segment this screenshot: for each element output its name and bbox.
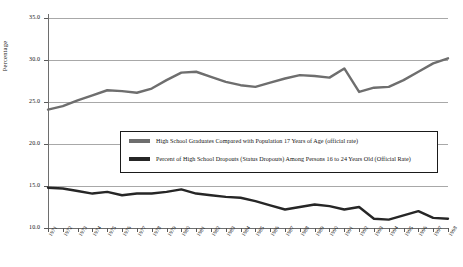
legend-label-graduates: High School Graduates Compared with Popu… [156, 138, 358, 144]
series-line-dropouts [48, 188, 448, 220]
legend-swatch-graduates [129, 139, 150, 142]
series-line-graduates [48, 58, 448, 109]
legend-item-dropouts: Percent of High School Dropouts (Status … [129, 156, 411, 162]
legend-item-graduates: High School Graduates Compared with Popu… [129, 138, 358, 144]
legend: High School Graduates Compared with Popu… [120, 131, 438, 173]
chart-container: Percentage 10.015.020.025.030.035.0 1971… [0, 0, 463, 267]
legend-label-dropouts: Percent of High School Dropouts (Status … [156, 156, 411, 162]
legend-swatch-dropouts [129, 157, 150, 160]
